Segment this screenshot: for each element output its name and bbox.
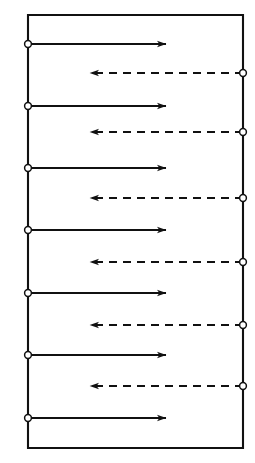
solid-right-arrow-group [28,44,166,418]
left-border-node-5 [25,290,32,297]
right-border-node-2 [240,129,247,136]
right-border-node-1 [240,70,247,77]
left-border-node-1 [25,41,32,48]
frame-rectangle [28,15,243,448]
right-border-node-3 [240,195,247,202]
right-border-node-5 [240,322,247,329]
left-edge-annotation: 44 M RE [0,379,37,403]
right-border-node-4 [240,259,247,266]
left-border-node-4 [25,227,32,234]
left-border-node-6 [25,352,32,359]
traversal-diagram [0,0,255,463]
figure-container: 44 M RE [0,0,255,463]
left-border-node-2 [25,103,32,110]
left-border-node-3 [25,165,32,172]
right-border-node-6 [240,383,247,390]
left-border-node-7 [25,415,32,422]
